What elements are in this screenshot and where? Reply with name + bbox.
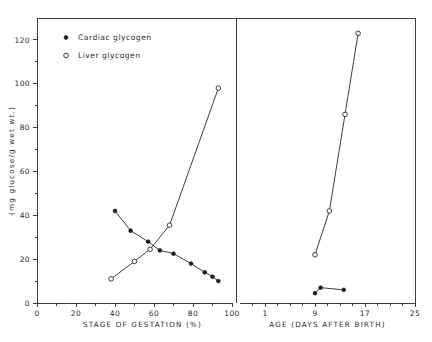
legend-label-cardiac: Cardiac glycogen (78, 33, 152, 42)
data-point-liver-glycogen (343, 112, 348, 117)
data-point-cardiac-glycogen (129, 229, 133, 233)
data-point-liver-glycogen (109, 277, 114, 282)
x-axis-label-gestation: STAGE OF GESTATION (%) (83, 320, 202, 329)
svg-text:80: 80 (20, 123, 30, 132)
svg-text:20: 20 (71, 309, 81, 318)
data-point-cardiac-glycogen (189, 262, 193, 266)
svg-text:40: 40 (20, 211, 30, 220)
figure-container: 020406080100120(mg glucose/g wet wt.)020… (0, 0, 432, 342)
svg-text:9: 9 (312, 309, 317, 318)
data-point-liver-glycogen (327, 209, 332, 214)
svg-text:1: 1 (262, 309, 267, 318)
y-axis-label: (mg glucose/g wet wt.) (7, 106, 16, 215)
x-axis-label-postnatal: AGE (DAYS AFTER BIRTH) (269, 320, 386, 329)
legend-marker-cardiac (64, 36, 68, 40)
svg-text:40: 40 (110, 309, 120, 318)
data-point-liver-glycogen (313, 252, 318, 257)
svg-text:60: 60 (149, 309, 159, 318)
data-point-liver-glycogen (167, 223, 172, 228)
data-point-cardiac-glycogen (211, 275, 215, 279)
data-point-liver-glycogen (356, 31, 361, 36)
svg-text:17: 17 (360, 309, 370, 318)
svg-text:0: 0 (25, 299, 30, 308)
data-point-cardiac-glycogen (172, 252, 176, 256)
legend-label-liver: Liver glycogen (78, 51, 141, 60)
series-line-liver-glycogen-gestation (111, 88, 218, 279)
svg-text:20: 20 (20, 255, 30, 264)
glycogen-chart: 020406080100120(mg glucose/g wet wt.)020… (0, 0, 432, 342)
svg-text:0: 0 (34, 309, 39, 318)
data-point-cardiac-glycogen (158, 248, 162, 252)
data-point-cardiac-glycogen (146, 240, 150, 244)
data-point-liver-glycogen (148, 247, 153, 252)
series-line-liver-glycogen-postnatal (315, 33, 358, 254)
series-line-cardiac-glycogen-gestation (115, 211, 218, 281)
data-point-cardiac-glycogen (313, 291, 317, 295)
data-point-cardiac-glycogen (203, 270, 207, 274)
svg-text:100: 100 (14, 79, 30, 88)
data-point-liver-glycogen (216, 86, 221, 91)
svg-text:80: 80 (188, 309, 198, 318)
data-point-liver-glycogen (132, 259, 137, 264)
svg-text:100: 100 (224, 309, 240, 318)
svg-text:120: 120 (14, 36, 30, 45)
svg-text:25: 25 (410, 309, 420, 318)
data-point-cardiac-glycogen (216, 279, 220, 283)
data-point-cardiac-glycogen (113, 209, 117, 213)
svg-text:60: 60 (20, 167, 30, 176)
data-point-cardiac-glycogen (342, 288, 346, 292)
data-point-cardiac-glycogen (319, 286, 323, 290)
legend-marker-liver (64, 53, 69, 58)
